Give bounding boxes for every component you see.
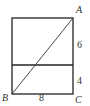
point-label-a: A bbox=[75, 4, 83, 15]
measurement-right-upper: 6 bbox=[77, 39, 82, 50]
geometry-figure: A B C 8 6 4 bbox=[0, 0, 90, 106]
diagonal-line-ab bbox=[12, 18, 73, 94]
measurement-right-lower: 4 bbox=[77, 75, 82, 86]
point-label-c: C bbox=[75, 94, 82, 105]
measurement-bottom: 8 bbox=[39, 92, 44, 103]
point-label-b: B bbox=[2, 92, 8, 103]
